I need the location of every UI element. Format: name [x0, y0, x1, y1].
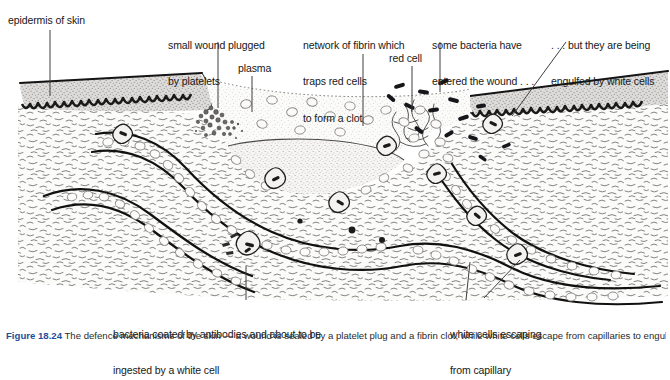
label-line: traps red cells	[303, 75, 405, 87]
label-line: entered the wound . . .	[432, 75, 534, 87]
label-line: red cell	[389, 52, 422, 64]
label-line: to form a clot	[303, 112, 405, 124]
label-line: ingested by a white cell	[113, 364, 321, 376]
label-engulfed-by-white-cells: . . . but they are being engulfed by whi…	[551, 14, 654, 112]
label-bacteria-coated-by-antibodies: bacteria coated by antibodies and about …	[113, 303, 321, 380]
label-red-cell: red cell	[389, 52, 422, 64]
label-line: . . . but they are being	[551, 39, 654, 51]
label-line: by platelets	[168, 75, 265, 87]
label-line: small wound plugged	[168, 39, 265, 51]
label-line: plasma	[238, 62, 271, 74]
figure-caption-number: Figure 18.24	[6, 330, 62, 341]
figure-caption-text: The defence mechanisms of the skin — a w…	[65, 330, 667, 341]
label-line: some bacteria have	[432, 39, 534, 51]
figure-caption: Figure 18.24 The defence mechanisms of t…	[6, 330, 666, 341]
label-line: from capillary	[450, 364, 541, 376]
label-network-of-fibrin: network of fibrin which traps red cells …	[303, 14, 405, 149]
label-white-cells-escaping: white cells escaping from capillary	[450, 303, 541, 380]
label-line: epidermis of skin	[8, 14, 85, 26]
label-epidermis-of-skin: epidermis of skin	[8, 14, 85, 26]
label-line: engulfed by white cells	[551, 75, 654, 87]
label-bacteria-entered-wound: some bacteria have entered the wound . .…	[432, 14, 534, 112]
label-line: network of fibrin which	[303, 39, 405, 51]
label-plasma: plasma	[238, 62, 271, 74]
